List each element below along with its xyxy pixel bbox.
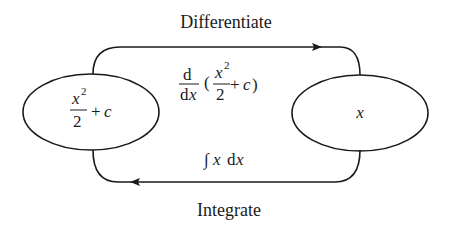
derivative-plus: + (230, 75, 240, 94)
left-node-exponent: 2 (81, 85, 87, 97)
left-node-numerator: x (71, 89, 80, 108)
differentiate-label: Differentiate (180, 12, 272, 32)
derivative-var: c (243, 75, 251, 94)
integral-dvar: x (235, 150, 244, 169)
derivative-open-paren: ( (204, 73, 210, 92)
diagram-canvas: Differentiate x 2 2 + c x d d x ( x 2 2 … (0, 0, 453, 227)
integral-sign: ∫ (203, 150, 210, 170)
derivative-inner-exponent: 2 (224, 59, 230, 71)
left-node-plus: + (91, 102, 101, 121)
left-node-var: c (104, 102, 112, 121)
derivative-inner-numerator: x (214, 63, 223, 82)
left-node-denominator: 2 (73, 112, 82, 131)
integrate-label: Integrate (197, 200, 261, 220)
integral-expression: ∫ x d x (203, 150, 244, 170)
derivative-x-denominator: x (188, 85, 197, 104)
derivative-d-denominator: d (180, 85, 189, 104)
derivative-expression: d d x ( x 2 2 + c ) (179, 59, 258, 104)
left-node-expression: x 2 2 + c (70, 85, 112, 131)
integral-var: x (212, 150, 221, 169)
derivative-d-numerator: d (183, 65, 192, 84)
integral-d: d (227, 150, 236, 169)
derivative-close-paren: ) (252, 75, 258, 94)
right-node-text: x (355, 103, 364, 122)
derivative-inner-denominator: 2 (216, 85, 225, 104)
